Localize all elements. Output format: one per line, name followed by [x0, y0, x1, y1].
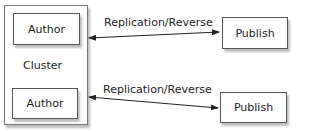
connection-label-top: Replication/Reverse [104, 16, 213, 29]
bidirectional-arrow-bottom [89, 97, 218, 108]
bidirectional-arrow-top [89, 32, 219, 38]
connection-label-bottom: Replication/Reverse [103, 83, 212, 96]
